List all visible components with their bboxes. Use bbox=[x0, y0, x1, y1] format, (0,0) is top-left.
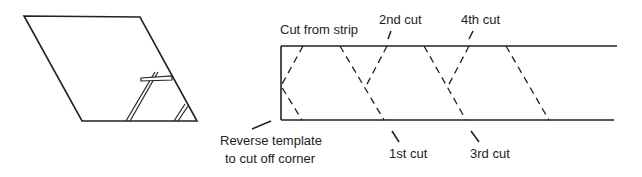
reverse-template-leader bbox=[252, 121, 271, 129]
fourth-cut-leader bbox=[469, 31, 473, 39]
first-cut-line bbox=[340, 46, 384, 120]
cut-lines bbox=[281, 46, 549, 120]
leader-lines bbox=[252, 31, 479, 142]
label-reverse-template-2: to cut off corner bbox=[225, 151, 315, 166]
third-cut-line bbox=[424, 46, 466, 120]
label-cut-from-strip: Cut from strip bbox=[280, 22, 358, 37]
second-cut-line bbox=[365, 46, 387, 88]
label-first-cut: 1st cut bbox=[389, 146, 427, 161]
third-cut-leader bbox=[471, 131, 479, 142]
label-fourth-cut: 4th cut bbox=[461, 12, 500, 27]
fourth-cut-line bbox=[447, 46, 469, 88]
next-cut-line bbox=[506, 46, 549, 120]
first-cut-leader bbox=[392, 131, 399, 142]
ruler-overlay bbox=[126, 72, 188, 121]
label-second-cut: 2nd cut bbox=[379, 12, 422, 27]
reverse-corner-cut bbox=[281, 46, 303, 120]
label-reverse-template-1: Reverse template bbox=[220, 133, 322, 148]
parallelogram-template bbox=[24, 16, 197, 121]
label-third-cut: 3rd cut bbox=[470, 146, 510, 161]
second-cut-leader bbox=[388, 31, 391, 39]
